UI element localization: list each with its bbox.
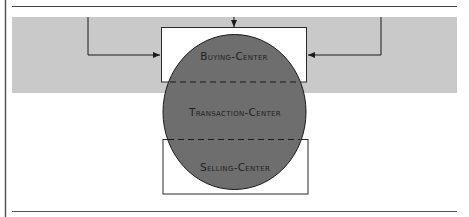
- buying-selling-center-diagram: Buying-Center Transaction-Center Selling…: [0, 0, 469, 217]
- label-buying-center: Buying-Center: [200, 50, 268, 62]
- label-transaction-center: Transaction-Center: [188, 106, 281, 118]
- label-selling-center: Selling-Center: [200, 161, 270, 173]
